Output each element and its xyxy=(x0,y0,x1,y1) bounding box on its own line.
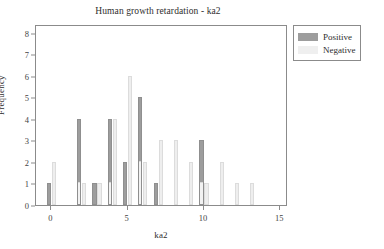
bar-negative xyxy=(250,183,254,205)
bar-negative xyxy=(159,140,163,205)
bar-positive xyxy=(199,140,203,205)
legend-label: Positive xyxy=(323,32,352,42)
bar-base-segment xyxy=(109,182,111,204)
bar-negative xyxy=(143,162,147,205)
x-tick-mark xyxy=(279,206,280,210)
bar-negative xyxy=(113,119,117,205)
x-tick-mark xyxy=(127,206,128,210)
x-tick-label: 5 xyxy=(125,213,129,223)
x-tick-label: 10 xyxy=(199,213,208,223)
bar-positive xyxy=(138,97,142,205)
y-tick-label: 5 xyxy=(25,93,29,103)
bar-negative xyxy=(189,162,193,205)
bar-negative xyxy=(52,162,56,205)
bar-negative xyxy=(235,183,239,205)
legend-label: Negative xyxy=(323,45,355,55)
x-axis-title: ka2 xyxy=(35,230,287,240)
bar-positive xyxy=(92,183,96,205)
bar-positive xyxy=(47,183,51,205)
legend-item-negative[interactable]: Negative xyxy=(298,43,355,56)
y-tick-label: 2 xyxy=(25,158,29,168)
legend-item-positive[interactable]: Positive xyxy=(298,30,355,43)
bar-negative xyxy=(82,183,86,205)
x-tick-label: 0 xyxy=(48,213,52,223)
legend-swatch-icon xyxy=(298,46,318,54)
bar-base-segment xyxy=(200,182,202,204)
bar-positive xyxy=(154,183,158,205)
y-tick-label: 0 xyxy=(25,201,29,211)
bar-positive xyxy=(123,162,127,205)
x-tick-label: 15 xyxy=(275,213,284,223)
bar-negative xyxy=(220,162,224,205)
x-tick-mark xyxy=(203,206,204,210)
y-axis-title: Frequency xyxy=(0,75,6,115)
bar-negative xyxy=(97,183,101,205)
y-tick-label: 8 xyxy=(25,29,29,39)
bar-negative xyxy=(174,140,178,205)
bar-base-segment xyxy=(78,182,80,204)
legend-swatch-icon xyxy=(298,33,318,41)
y-tick-label: 7 xyxy=(25,50,29,60)
plot-frame xyxy=(35,25,287,206)
bar-negative xyxy=(128,76,132,205)
bar-positive xyxy=(77,119,81,205)
bar-negative xyxy=(204,183,208,205)
x-tick-mark xyxy=(50,206,51,210)
y-tick-label: 1 xyxy=(25,179,29,189)
plot-area xyxy=(36,26,286,205)
y-tick-label: 6 xyxy=(25,72,29,82)
bar-positive xyxy=(108,119,112,205)
bar-base-segment xyxy=(139,161,141,204)
y-tick-label: 4 xyxy=(25,115,29,125)
histogram-figure: Human growth retardation - ka2 Frequency… xyxy=(0,0,384,249)
page-title: Human growth retardation - ka2 xyxy=(30,6,286,16)
y-tick-label: 3 xyxy=(25,136,29,146)
legend: PositiveNegative xyxy=(293,25,361,61)
